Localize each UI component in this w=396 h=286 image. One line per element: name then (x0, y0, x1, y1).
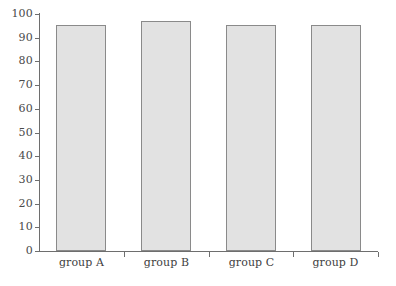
bar-chart: 0102030405060708090100 group Agroup Bgro… (0, 0, 396, 286)
bar (56, 25, 106, 251)
bar (311, 25, 361, 251)
x-axis-category-label: group C (209, 256, 294, 269)
bar-series (0, 0, 396, 286)
bar (141, 21, 191, 251)
x-axis-category-label: group D (293, 256, 378, 269)
bar (226, 25, 276, 251)
x-axis-category-label: group A (39, 256, 124, 269)
x-axis-category-label: group B (124, 256, 209, 269)
